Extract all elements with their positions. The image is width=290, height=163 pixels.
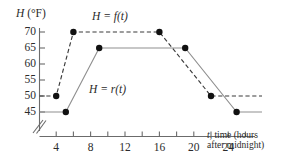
xtick-label-4: 4: [45, 142, 67, 154]
x-axis-title: t, time (hoursafter midnight): [207, 130, 287, 151]
ytick-label-50: 50: [14, 90, 36, 102]
y-axis-title-var: H: [16, 7, 24, 19]
x-axis-title-line2: after midnight): [207, 140, 264, 150]
series-f-line: [40, 32, 263, 96]
series-r-markers: [63, 45, 240, 115]
y-axis-ticks: [40, 32, 46, 112]
ytick-label-65: 65: [14, 42, 36, 54]
xtick-label-12: 12: [114, 142, 136, 154]
xtick-label-20: 20: [183, 142, 205, 154]
ytick-label-45: 45: [14, 106, 36, 118]
ytick-label-70: 70: [14, 26, 36, 38]
temperature-graph-figure: H (°F) 70 65 60 55 50 45 4 8 12 16 20 24…: [0, 0, 290, 163]
series-f-label: H = f(t): [92, 11, 128, 23]
y-axis-title: H (°F): [16, 8, 46, 20]
xtick-label-16: 16: [148, 142, 170, 154]
ytick-label-55: 55: [14, 74, 36, 86]
xtick-label-8: 8: [80, 142, 102, 154]
x-axis-title-line1: , time (hours: [210, 130, 258, 140]
series-f-markers: [53, 29, 214, 99]
series-r-line: [40, 48, 263, 112]
ytick-label-60: 60: [14, 58, 36, 70]
series-r-label: H = r(t): [89, 84, 126, 96]
y-axis-title-unit: (°F): [27, 7, 46, 19]
